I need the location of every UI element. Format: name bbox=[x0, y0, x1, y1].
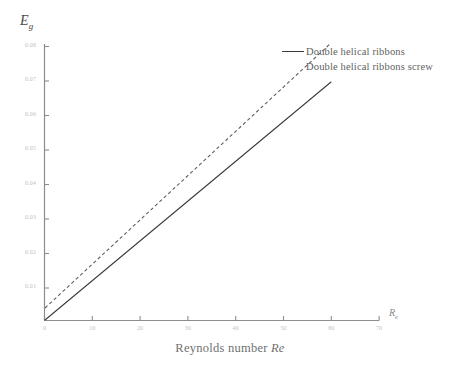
x-tick-label: 50 bbox=[274, 325, 294, 331]
series-line-double-helical-ribbons bbox=[45, 82, 331, 320]
x-tick-label: 40 bbox=[226, 325, 246, 331]
y-tick-label: 0.05 bbox=[14, 145, 36, 151]
x-axis-title: Reynolds number Re bbox=[0, 341, 460, 356]
y-axis-ticks bbox=[45, 47, 50, 289]
y-tick-label: 0.06 bbox=[14, 111, 36, 117]
x-tick-label: 30 bbox=[178, 325, 198, 331]
x-axis-ticks bbox=[45, 316, 380, 321]
x-axis-title-symbol: Re bbox=[271, 341, 285, 355]
y-tick-label: 0.04 bbox=[14, 180, 36, 186]
x-tick-label: 0 bbox=[35, 325, 55, 331]
y-tick-label: 0.03 bbox=[14, 214, 36, 220]
chart-legend: Double helical ribbons Double helical ri… bbox=[282, 44, 458, 74]
chart-figure: Eg Re bbox=[0, 0, 460, 371]
legend-entry-double-helical-ribbons-screw: Double helical ribbons screw bbox=[282, 59, 458, 74]
x-tick-label: 20 bbox=[130, 325, 150, 331]
x-axis-title-text: Reynolds number bbox=[175, 341, 267, 355]
series-line-double-helical-ribbons-screw bbox=[45, 43, 331, 308]
y-tick-label: 0.01 bbox=[14, 283, 36, 289]
y-tick-label: 0.02 bbox=[14, 249, 36, 255]
y-tick-label: 0.07 bbox=[14, 76, 36, 82]
legend-entry-label: Double helical ribbons screw bbox=[306, 61, 433, 72]
x-tick-label: 60 bbox=[321, 325, 341, 331]
legend-solid-line-swatch bbox=[282, 51, 304, 53]
legend-entry-label: Double helical ribbons bbox=[306, 46, 405, 57]
x-tick-label: 70 bbox=[369, 325, 389, 331]
x-tick-label: 10 bbox=[82, 325, 102, 331]
legend-entry-double-helical-ribbons: Double helical ribbons bbox=[282, 44, 458, 59]
legend-blank-swatch bbox=[282, 66, 304, 68]
y-tick-label: 0.08 bbox=[14, 42, 36, 48]
